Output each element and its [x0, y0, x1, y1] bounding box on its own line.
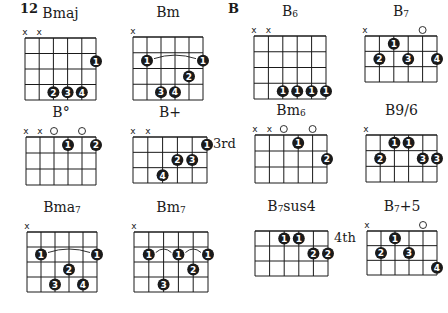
finger-dot: 3	[403, 247, 415, 259]
svg-text:1: 1	[392, 234, 398, 244]
svg-text:3: 3	[406, 248, 412, 258]
fretboard-grid: x1234	[0, 0, 448, 313]
finger-dot: 4	[431, 262, 443, 274]
open-string-icon	[420, 222, 427, 229]
finger-dot: 1	[389, 232, 401, 244]
muted-string-icon: x	[364, 220, 370, 230]
svg-text:4: 4	[434, 263, 440, 273]
svg-text:2: 2	[378, 248, 384, 258]
finger-dot: 2	[375, 247, 387, 259]
